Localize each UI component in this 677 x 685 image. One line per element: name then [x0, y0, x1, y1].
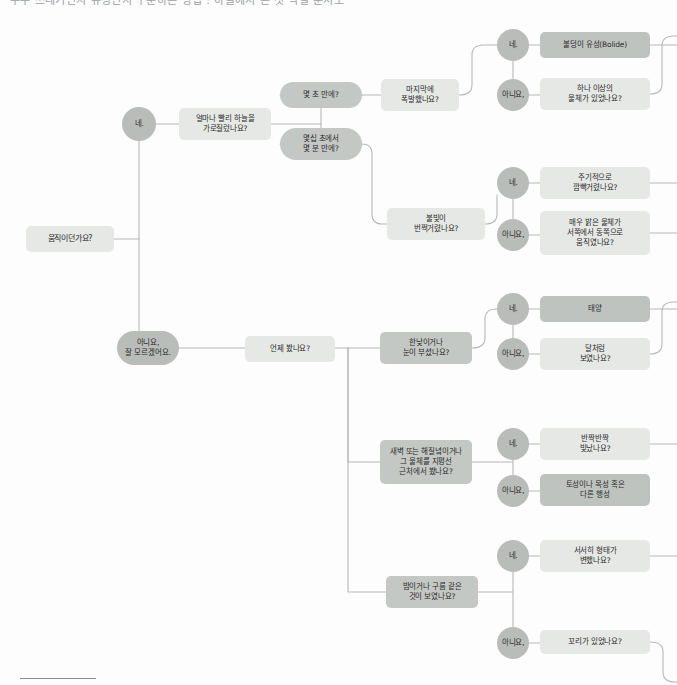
node-label-q_horizon: 새벽 또는 해질녘이거나 그 물체를 지평선 근처에서 봤나요?: [390, 447, 462, 477]
connector-q_multi-to-right2: [650, 36, 677, 94]
node-label-q_twinkle: 반짝반짝 빛났나요?: [580, 434, 611, 454]
node-label-q_tail: 꼬리가 있었나요?: [568, 637, 622, 647]
node-yes6[interactable]: 네.: [497, 540, 529, 572]
node-label-q_flash: 불빛이 번쩍거렸나요?: [414, 214, 459, 234]
node-label-yes3: 네.: [509, 178, 518, 188]
node-label-q_multi: 하나 이상의 물체가 있었나요?: [568, 84, 622, 104]
node-q_daylight[interactable]: 한낮이거나 눈이 부셨나요?: [380, 332, 472, 364]
connector-q_moonlike-to-right6: [650, 302, 677, 354]
node-q_tail[interactable]: 꼬리가 있었나요?: [540, 630, 650, 654]
node-label-no6: 아니요,: [502, 638, 525, 648]
node-q_shape[interactable]: 서서히 형태가 변했나요?: [540, 540, 650, 572]
node-label-yes6: 네.: [509, 551, 518, 561]
node-q_cloud[interactable]: 밤이거나 구름 같은 것이 보였나요?: [386, 576, 478, 608]
node-q_westeast[interactable]: 매우 밝은 물체가 서쪽에서 동쪽으로 움직였나요?: [540, 211, 650, 255]
node-root[interactable]: 움직이던가요?: [26, 226, 114, 252]
node-q_twinkle[interactable]: 반짝반짝 빛났나요?: [540, 428, 650, 460]
node-label-t_planet: 토성이나 목성 혹은 다른 행성: [566, 480, 625, 500]
node-a_seconds[interactable]: 몇 초 만에?: [280, 82, 362, 108]
node-q_explode[interactable]: 마지막에 폭발했나요?: [381, 79, 459, 111]
node-no3[interactable]: 아니요,: [497, 219, 529, 251]
flowchart-canvas: 우주 쓰레기인지 유성인지 구분하는 방법 : 하늘에서 본 것 식별 순서도 …: [0, 0, 677, 685]
node-label-no5: 아니요,: [502, 486, 525, 496]
cropped-title-text: 우주 쓰레기인지 유성인지 구분하는 방법 : 하늘에서 본 것 식별 순서도: [10, 0, 344, 7]
node-yes2[interactable]: 네.: [497, 29, 529, 61]
cropped-title-strip: 우주 쓰레기인지 유성인지 구분하는 방법 : 하늘에서 본 것 식별 순서도: [0, 0, 677, 9]
node-q_moonlike[interactable]: 달처럼 보였나요?: [540, 338, 650, 370]
node-label-a_seconds: 몇 초 만에?: [303, 90, 338, 100]
node-no5[interactable]: 아니요,: [497, 475, 529, 507]
node-label-root: 움직이던가요?: [48, 234, 93, 245]
footer-divider: [20, 678, 96, 679]
node-no4[interactable]: 아니요,: [497, 338, 529, 370]
node-t_bolide[interactable]: 불덩이 유성(Bolide): [540, 32, 650, 58]
node-label-q_cloud: 밤이거나 구름 같은 것이 보였나요?: [403, 582, 462, 602]
node-label-t_bolide: 불덩이 유성(Bolide): [563, 40, 627, 50]
node-q_flash[interactable]: 불빛이 번쩍거렸나요?: [387, 208, 485, 240]
node-q_multi[interactable]: 하나 이상의 물체가 있었나요?: [540, 78, 650, 110]
node-label-q_shape: 서서히 형태가 변했나요?: [574, 546, 617, 566]
node-label-no2: 아니요,: [502, 90, 525, 100]
node-yes1[interactable]: 네.: [122, 107, 156, 141]
connector-q_cloud-to-ans6: [478, 572, 513, 627]
node-t_sun[interactable]: 태양: [540, 296, 650, 322]
node-label-q_periodic: 주기적으로 깜빡거렸나요?: [573, 173, 618, 193]
node-label-q_moonlike: 달처럼 보였나요?: [580, 344, 611, 364]
node-label-q_speed: 얼마나 빨리 하늘을 가로질렀나요?: [196, 114, 255, 134]
node-yes4[interactable]: 네.: [497, 293, 529, 325]
connector-trunk2-to-q_horizon: [348, 348, 380, 462]
node-label-yes1: 네.: [135, 119, 144, 129]
node-a_minutes[interactable]: 몇십 초에서 몇 분 만에?: [280, 128, 362, 160]
node-label-q_explode: 마지막에 폭발했나요?: [401, 85, 439, 105]
node-yes5[interactable]: 네.: [497, 428, 529, 460]
node-q_horizon[interactable]: 새벽 또는 해질녘이거나 그 물체를 지평선 근처에서 봤나요?: [380, 440, 472, 484]
node-label-q_westeast: 매우 밝은 물체가 서쪽에서 동쪽으로 움직였나요?: [567, 218, 624, 248]
node-label-yes5: 네.: [509, 439, 518, 449]
connector-q_tail-to-right9: [650, 642, 677, 682]
node-no1[interactable]: 아니요, 잘 모르겠어요.: [117, 331, 179, 365]
node-label-no3: 아니요,: [502, 230, 525, 240]
node-label-q_when: 언제 봤나요?: [270, 344, 310, 354]
node-label-no4: 아니요,: [502, 349, 525, 359]
node-label-yes2: 네.: [509, 40, 518, 50]
node-q_periodic[interactable]: 주기적으로 깜빡거렸나요?: [540, 167, 650, 199]
node-yes3[interactable]: 네.: [497, 167, 529, 199]
node-label-yes4: 네.: [509, 304, 518, 314]
node-no2[interactable]: 아니요,: [497, 79, 529, 111]
connector-a_minutes-to-q_flash: [362, 144, 387, 224]
connector-root-to-yes1: [114, 141, 139, 239]
node-label-t_sun: 태양: [588, 304, 602, 314]
node-t_planet[interactable]: 토성이나 목성 혹은 다른 행성: [540, 474, 650, 506]
node-q_speed[interactable]: 얼마나 빨리 하늘을 가로질렀나요?: [179, 108, 271, 140]
node-no6[interactable]: 아니요,: [497, 627, 529, 659]
node-q_when[interactable]: 언제 봤나요?: [245, 336, 335, 362]
node-label-no1: 아니요, 잘 모르겠어요.: [125, 338, 170, 358]
node-label-q_daylight: 한낮이거나 눈이 부셨나요?: [403, 338, 450, 358]
node-label-a_minutes: 몇십 초에서 몇 분 만에?: [303, 134, 339, 154]
